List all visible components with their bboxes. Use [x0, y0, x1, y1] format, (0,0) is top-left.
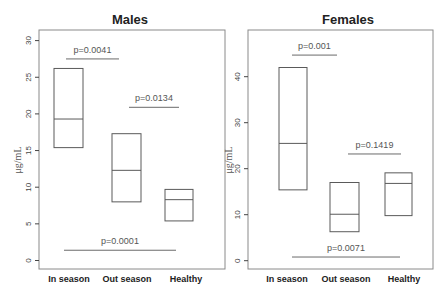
p-value-label: p=0.001: [298, 41, 331, 51]
y-tick-label: 0: [24, 258, 33, 263]
y-tick-label: 15: [24, 146, 33, 155]
box-out-season: [330, 183, 359, 232]
y-tick-label: 20: [233, 164, 242, 173]
box-in-season: [54, 68, 83, 147]
x-category-label: Out season: [102, 274, 151, 284]
y-tick-label: 30: [24, 36, 33, 45]
y-tick-label: 25: [24, 72, 33, 81]
box-out-season: [112, 134, 141, 202]
chart-title: Females: [322, 12, 374, 27]
y-tick-label: 30: [233, 118, 242, 127]
p-value-label: p=0.0071: [327, 243, 365, 253]
y-axis-label: μg/mL: [223, 146, 234, 173]
chart-title: Males: [112, 12, 148, 27]
y-axis-label: μg/mL: [12, 146, 23, 173]
y-tick-label: 10: [233, 210, 242, 219]
p-value-label: p=0.0041: [74, 45, 112, 55]
p-value-label: p=0.0001: [101, 236, 139, 246]
box-healthy: [385, 173, 412, 216]
plot-frame: [248, 30, 433, 269]
y-tick-label: 0: [233, 258, 242, 263]
box-chart: Males051015202530μg/mLIn seasonOut seaso…: [0, 0, 447, 298]
y-tick-label: 10: [24, 182, 33, 191]
box-in-season: [279, 68, 307, 190]
x-category-label: In season: [266, 274, 308, 284]
y-tick-label: 20: [24, 109, 33, 118]
x-category-label: Healthy: [170, 274, 203, 284]
p-value-label: p=0.1419: [356, 140, 394, 150]
x-category-label: Out season: [321, 274, 370, 284]
x-category-label: Healthy: [388, 274, 421, 284]
y-tick-label: 40: [233, 72, 242, 81]
y-tick-label: 5: [24, 221, 33, 226]
x-category-label: In season: [48, 274, 90, 284]
males-panel: Males051015202530μg/mLIn seasonOut seaso…: [12, 12, 225, 284]
p-value-label: p=0.0134: [135, 93, 173, 103]
females-panel: Females010203040μg/mLIn seasonOut season…: [223, 12, 433, 284]
box-healthy: [165, 189, 193, 221]
